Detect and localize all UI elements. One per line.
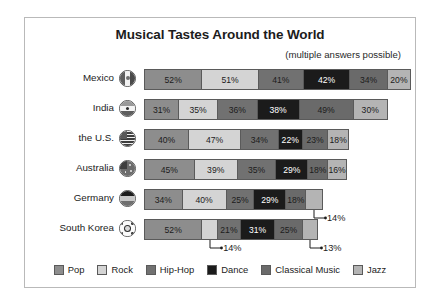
segment-value-label: 23% xyxy=(306,135,323,145)
bar-segment: 49% xyxy=(300,100,354,119)
bar-segment: 40% xyxy=(183,190,227,209)
legend-label: Rock xyxy=(111,264,132,275)
legend-label: Classical Music xyxy=(275,264,340,275)
segment-value-label: 36% xyxy=(229,105,246,115)
stacked-bar: 34%40%25%29%18% xyxy=(144,189,323,210)
bar-row: Australia45%39%35%29%18%16% xyxy=(25,157,415,187)
bar-segment: 52% xyxy=(145,70,202,89)
bar-segment: 16% xyxy=(328,160,346,179)
segment-value-label: 52% xyxy=(165,75,182,85)
bar-segment: 36% xyxy=(218,100,258,119)
segment-value-label: 40% xyxy=(158,135,175,145)
bar-segment: 41% xyxy=(259,70,304,89)
segment-value-label: 16% xyxy=(329,165,346,175)
segment-value-label: 34% xyxy=(155,195,172,205)
legend-label: Jazz xyxy=(367,264,386,275)
bar-segment: 21% xyxy=(218,220,241,239)
bar-segment: 34% xyxy=(350,70,388,89)
segment-value-label: 34% xyxy=(251,135,268,145)
bar-row: Mexico52%51%41%42%34%20% xyxy=(25,67,415,97)
bar-row: South Korea14%13%52%21%31%25% xyxy=(25,217,415,247)
segment-value-label: 25% xyxy=(231,195,248,205)
segment-value-label: 34% xyxy=(360,75,377,85)
segment-value-label: 39% xyxy=(207,165,224,175)
chart-frame: Musical Tastes Around the World (multipl… xyxy=(24,17,416,288)
legend-swatch-icon xyxy=(261,265,271,275)
bar-segment: 31% xyxy=(241,220,275,239)
bar-segment: 30% xyxy=(354,100,387,119)
segment-value-label: 18% xyxy=(287,195,304,205)
bar-segment: 29% xyxy=(276,160,308,179)
bar-row: Germany14%34%40%25%29%18% xyxy=(25,187,415,217)
india-flag-icon xyxy=(119,100,136,117)
segment-value-label: 49% xyxy=(318,105,335,115)
bar-segment: 18% xyxy=(308,160,328,179)
legend-swatch-icon xyxy=(54,265,64,275)
usa-flag-icon xyxy=(119,130,136,147)
chart-legend: PopRockHip-HopDanceClassical MusicJazz xyxy=(25,264,415,275)
segment-value-label: 31% xyxy=(249,225,266,235)
bar-segment: 29% xyxy=(254,190,286,209)
row-label-the-u-s: the U.S. xyxy=(0,132,114,143)
bar-segment: 39% xyxy=(195,160,238,179)
stacked-bar: 31%35%36%38%49%30% xyxy=(144,99,388,120)
australia-flag-icon xyxy=(119,160,136,177)
bar-segment xyxy=(202,220,217,239)
legend-item-pop[interactable]: Pop xyxy=(54,264,85,275)
bar-segment: 40% xyxy=(145,130,189,149)
legend-label: Dance xyxy=(221,264,248,275)
row-label-germany: Germany xyxy=(0,192,114,203)
segment-value-label: 42% xyxy=(318,75,335,85)
bar-segment: 45% xyxy=(145,160,195,179)
segment-value-label: 41% xyxy=(272,75,289,85)
segment-value-label: 31% xyxy=(153,105,170,115)
callout-value-label: 14% xyxy=(223,243,241,253)
segment-value-label: 29% xyxy=(283,165,300,175)
row-label-south-korea: South Korea xyxy=(0,222,114,233)
segment-value-label: 20% xyxy=(390,75,407,85)
bar-segment: 22% xyxy=(279,130,303,149)
germany-flag-icon xyxy=(119,190,136,207)
bar-segment: 51% xyxy=(202,70,258,89)
bar-segment: 35% xyxy=(238,160,277,179)
segment-value-label: 30% xyxy=(362,105,379,115)
south-korea-flag-icon xyxy=(119,220,136,237)
bar-segment: 34% xyxy=(241,130,279,149)
row-label-australia: Australia xyxy=(0,162,114,173)
segment-value-label: 35% xyxy=(189,105,206,115)
bar-segment: 25% xyxy=(275,220,303,239)
legend-swatch-icon xyxy=(353,265,363,275)
callout-value-label: 13% xyxy=(323,243,341,253)
chart-subtitle: (multiple answers possible) xyxy=(285,49,401,60)
legend-item-dance[interactable]: Dance xyxy=(207,264,248,275)
bar-segment: 35% xyxy=(179,100,218,119)
stacked-bar: 40%47%34%22%23%18% xyxy=(144,129,349,150)
legend-item-hip-hop[interactable]: Hip-Hop xyxy=(146,264,194,275)
segment-value-label: 22% xyxy=(282,135,299,145)
mexico-flag-icon xyxy=(119,70,136,87)
row-label-mexico: Mexico xyxy=(0,72,114,83)
segment-value-label: 18% xyxy=(330,135,347,145)
segment-value-label: 18% xyxy=(309,165,326,175)
stacked-bar: 45%39%35%29%18%16% xyxy=(144,159,347,180)
bar-segment xyxy=(303,220,317,239)
legend-item-classical-music[interactable]: Classical Music xyxy=(261,264,340,275)
bar-segment xyxy=(306,190,321,209)
row-label-india: India xyxy=(0,102,114,113)
bar-row: the U.S.40%47%34%22%23%18% xyxy=(25,127,415,157)
legend-swatch-icon xyxy=(207,265,217,275)
legend-item-jazz[interactable]: Jazz xyxy=(353,264,386,275)
legend-label: Hip-Hop xyxy=(160,264,194,275)
chart-title: Musical Tastes Around the World xyxy=(25,27,415,42)
legend-item-rock[interactable]: Rock xyxy=(97,264,132,275)
legend-swatch-icon xyxy=(97,265,107,275)
segment-value-label: 29% xyxy=(261,195,278,205)
segment-value-label: 25% xyxy=(280,225,297,235)
bar-segment: 23% xyxy=(303,130,328,149)
bar-segment: 18% xyxy=(286,190,306,209)
segment-value-label: 35% xyxy=(248,165,265,175)
bar-segment: 34% xyxy=(145,190,183,209)
segment-value-label: 45% xyxy=(161,165,178,175)
bar-row: India31%35%36%38%49%30% xyxy=(25,97,415,127)
segment-value-label: 47% xyxy=(206,135,223,145)
